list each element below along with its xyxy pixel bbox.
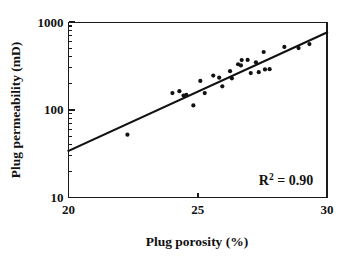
- y-axis-title: Plug permeability (mD): [8, 42, 23, 178]
- data-point: [240, 58, 244, 62]
- x-tick-label: 20: [62, 202, 75, 217]
- data-point: [296, 46, 300, 50]
- y-tick-label: 100: [44, 102, 64, 117]
- x-axis-tick-labels: 202530: [62, 202, 334, 217]
- y-axis-tick-labels: 101001000: [38, 15, 64, 206]
- data-point: [220, 84, 224, 88]
- data-point: [170, 91, 174, 95]
- scatter-plot-figure: 101001000 202530 R2 = 0.90 Plug porosity…: [0, 0, 345, 261]
- data-point: [228, 69, 232, 73]
- data-point: [184, 93, 188, 97]
- data-point: [254, 60, 258, 64]
- data-point: [246, 58, 250, 62]
- plot-canvas: 101001000 202530 R2 = 0.90 Plug porosity…: [0, 0, 345, 261]
- data-point: [191, 103, 195, 107]
- x-axis-title: Plug porosity (%): [146, 234, 249, 249]
- x-tick-label: 25: [191, 202, 205, 217]
- data-point: [177, 89, 181, 93]
- data-point: [268, 67, 272, 71]
- data-point: [125, 133, 129, 137]
- regression-line-path: [69, 32, 328, 150]
- data-point: [249, 71, 253, 75]
- data-point: [282, 45, 286, 49]
- data-point: [262, 50, 266, 54]
- r-squared-annotation: R2 = 0.90: [259, 172, 313, 188]
- axes-frame: [68, 22, 328, 198]
- data-point: [230, 76, 234, 80]
- x-tick-label: 30: [321, 202, 334, 217]
- data-point: [211, 74, 215, 78]
- y-axis-ticks: [69, 22, 75, 198]
- data-point: [217, 76, 221, 80]
- data-point: [198, 79, 202, 83]
- data-point: [239, 63, 243, 67]
- regression-line: [69, 32, 328, 150]
- data-point: [203, 91, 207, 95]
- data-point: [263, 67, 267, 71]
- data-point: [307, 42, 311, 46]
- y-tick-label: 1000: [38, 15, 64, 30]
- data-points: [125, 42, 311, 137]
- data-point: [257, 70, 261, 74]
